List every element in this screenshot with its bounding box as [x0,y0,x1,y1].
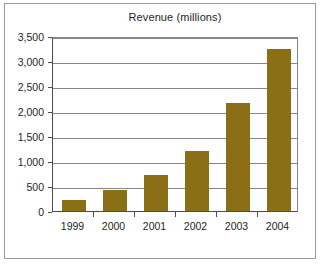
x-axis-tick [175,212,176,217]
bar-2002 [185,151,209,212]
y-axis-tick [48,137,52,138]
x-axis-tick [134,212,135,217]
x-axis-tick [216,212,217,217]
x-axis-tick-label: 2003 [225,220,248,232]
x-axis-tick-label: 2002 [184,220,207,232]
bar-2001 [144,175,168,212]
y-axis-tick-label: 2,000 [18,106,44,118]
y-axis-tick-label: 3,000 [18,56,44,68]
bar-2004 [267,49,291,212]
gridline [53,63,297,64]
y-axis-tick-label: 500 [26,181,44,193]
x-axis-tick-label: 2001 [143,220,166,232]
y-axis-tick [48,162,52,163]
y-axis-tick-label: 1,500 [18,131,44,143]
y-axis-tick-label: 2,500 [18,81,44,93]
gridline [53,113,297,114]
plot-area [52,37,298,212]
y-axis-tick [48,62,52,63]
y-axis-tick-label: 3,500 [18,31,44,43]
gridline [53,38,297,39]
x-axis-tick-label: 1999 [61,220,84,232]
x-axis-tick-label: 2000 [102,220,125,232]
y-axis-tick [48,187,52,188]
gridline [53,188,297,189]
y-axis-tick [48,87,52,88]
x-axis-tick [257,212,258,217]
y-axis-tick [48,37,52,38]
y-axis-tick [48,212,52,213]
chart-title: Revenue (millions) [52,11,298,23]
bar-2003 [226,103,250,212]
bar-1999 [62,200,86,212]
y-axis-tick [48,112,52,113]
y-axis-tick-label: 1,000 [18,156,44,168]
y-axis-labels: 05001,0001,5002,0002,5003,0003,500 [0,0,44,264]
gridline [53,88,297,89]
y-axis-tick-label: 0 [38,206,44,218]
x-axis-tick [93,212,94,217]
bar-2000 [103,190,127,212]
gridline [53,163,297,164]
gridline [53,138,297,139]
chart-figure: Revenue (millions) 05001,0001,5002,0002,… [0,0,320,264]
x-axis-tick-label: 2004 [266,220,289,232]
